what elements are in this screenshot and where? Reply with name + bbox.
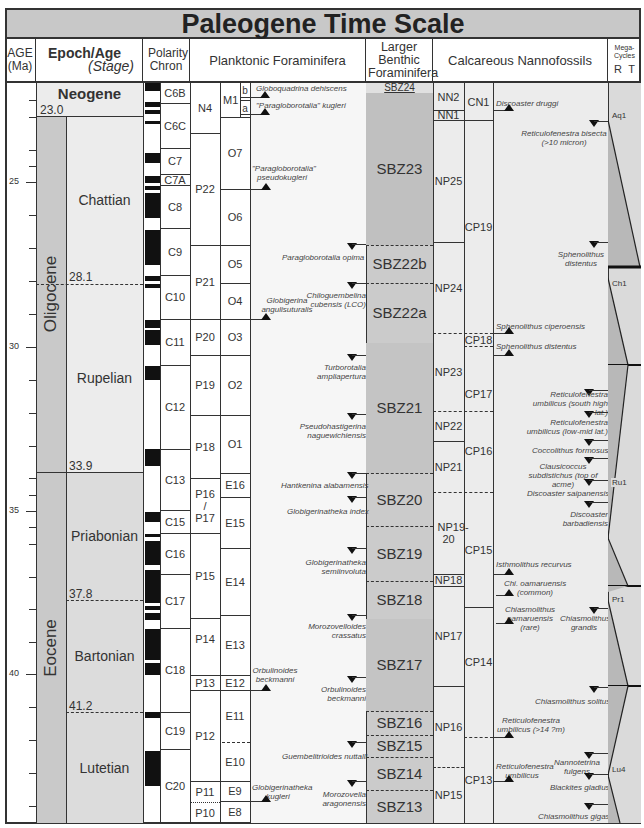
polarity-normal: [145, 751, 160, 786]
mega-r-label: R: [614, 63, 622, 75]
age-tick: [29, 413, 36, 414]
epoch-oligocene: Oligocene: [36, 116, 66, 472]
age-tick: [29, 773, 36, 774]
polarity-normal: [145, 613, 160, 620]
col-line: [493, 83, 494, 823]
age-tick: [29, 150, 36, 151]
chron-c15: C15: [160, 510, 190, 533]
boundary-age: 28.1: [69, 270, 92, 284]
header-polarity: Polarity Chron: [143, 39, 190, 83]
age-tick-major: [26, 182, 36, 183]
event-first-occurrence-icon: [504, 589, 514, 596]
event-label: Turborotalia ampliapertura: [314, 363, 366, 381]
age-tick: [29, 166, 36, 167]
polarity-normal: [145, 193, 160, 218]
sbz-zone-16: SBZ16: [366, 711, 433, 735]
sbz-zone-22a: SBZ22a: [366, 283, 433, 343]
event-first-occurrence-icon: [504, 617, 514, 624]
polarity-normal: [145, 83, 160, 91]
polarity-normal: [145, 570, 160, 603]
polarity-normal: [145, 629, 160, 660]
megacycle-pr1: Pr1: [611, 595, 625, 604]
event-line: [589, 412, 608, 413]
age-label: 25: [9, 176, 19, 186]
chron-c6b: C6B: [160, 83, 190, 103]
event-line: [589, 440, 608, 441]
age-tick: [29, 215, 36, 216]
pzone-p19: P19: [190, 355, 220, 415]
event-line: [594, 242, 608, 243]
age-tick: [29, 380, 36, 381]
event-line: [589, 753, 608, 754]
np-zone-23: NP23: [433, 333, 464, 411]
zone-o2: O2: [220, 355, 250, 415]
np-zone-24: NP24: [433, 242, 464, 333]
age-label: 35: [9, 505, 19, 515]
age-tick: [29, 806, 36, 807]
cp-zone-14: CP14: [464, 607, 493, 717]
pzone-p20: P20: [190, 319, 220, 355]
event-line: [352, 244, 366, 245]
event-label: Globigerinatheka semiinvoluta: [300, 558, 366, 576]
event-label: Paragloborotalia opima: [282, 253, 364, 262]
event-first-occurrence-icon: [504, 327, 514, 334]
np-zone-19-20: NP19-20: [433, 492, 464, 574]
header-age-label: AGE (Ma): [7, 47, 33, 73]
age-tick: [29, 100, 36, 101]
event-label: Chiloguembelina cubensis (LCO): [306, 291, 366, 309]
event-line: [352, 742, 366, 743]
mega-t-label: T: [628, 63, 635, 75]
stage-lutetian: Lutetian: [66, 712, 143, 823]
event-label: "Paragloborotalia" pseudokugleri: [252, 164, 312, 182]
header-polarity-label: Polarity Chron: [148, 47, 184, 73]
zone-o3: O3: [220, 319, 250, 355]
polarity-normal: [145, 276, 160, 281]
nanno-event-label: Clausicoccus subdistichus (top of acme): [518, 462, 608, 489]
event-line: [352, 677, 366, 678]
np-zone-16: NP16: [433, 686, 464, 767]
pzone-n4: N4: [190, 83, 220, 133]
planktonic-events-bg: [250, 83, 366, 823]
age-tick: [29, 446, 36, 447]
chron-c8: C8: [160, 185, 190, 228]
polarity-normal: [145, 512, 160, 522]
nanno-event-label: Sphenolithus distentus: [556, 250, 606, 268]
zone-o6: O6: [220, 189, 250, 245]
chron-c11: C11: [160, 319, 190, 365]
nn-zone-nn2: NN2: [433, 83, 464, 110]
header-nannofossils: Calcareous Nannofossils: [433, 39, 608, 83]
event-line: [352, 414, 366, 415]
zone-e16: E16: [220, 473, 250, 497]
polarity-normal: [145, 102, 160, 107]
stage-bartonian: Bartonian: [66, 600, 143, 712]
zone-o7: O7: [220, 117, 250, 189]
polarity-normal: [145, 153, 160, 163]
nanno-event-label: Reticulofenestra bisecta (>10 micron): [520, 129, 608, 147]
polarity-normal: [145, 606, 160, 610]
header-megacycles-label: Mega-Cycles: [613, 44, 637, 60]
stage-chattian: Chattian: [66, 116, 143, 284]
event-line: [352, 781, 366, 782]
zone-e15: E15: [220, 497, 250, 548]
sbz-zone-18: SBZ18: [366, 581, 433, 619]
age-tick: [29, 642, 36, 643]
event-first-occurrence-icon: [260, 91, 270, 98]
event-first-occurrence-icon: [504, 731, 514, 738]
event-line: [352, 497, 366, 498]
zone-o4: O4: [220, 283, 250, 319]
stage-priabonian: Priabonian: [66, 472, 143, 600]
chron-c19: C19: [160, 712, 190, 749]
zone-o1: O1: [220, 415, 250, 473]
event-label: Morozovelloides crassatus: [306, 622, 366, 640]
pzone-p16-p17-label: P16 / P17: [194, 488, 216, 524]
polarity-normal: [145, 176, 160, 183]
polarity-normal: [145, 663, 160, 675]
megacycle-curve: [608, 83, 641, 823]
event-line: [594, 121, 608, 122]
event-first-occurrence-icon: [261, 183, 271, 190]
np-zone-19-20-label: NP19-20: [438, 521, 460, 545]
event-label: Guembelitrioides nuttalli: [282, 752, 367, 761]
nanno-event-label: Blackites gladius: [550, 783, 610, 792]
event-label: Morozovella aragonensis: [318, 790, 366, 808]
pzone-p16-p17: P16 / P17: [190, 478, 220, 533]
